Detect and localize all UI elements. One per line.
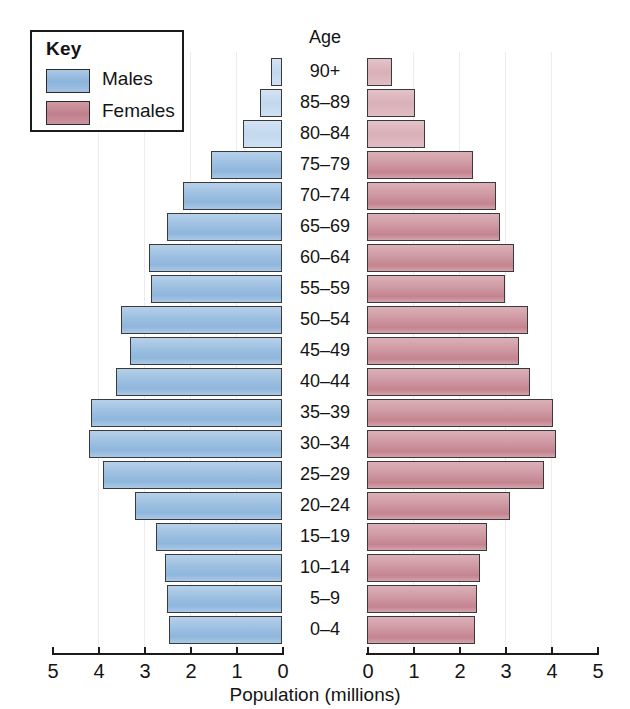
axis-tick bbox=[367, 647, 369, 655]
axis-tick bbox=[505, 647, 507, 655]
bar-male-15–19 bbox=[156, 523, 283, 551]
gridline bbox=[98, 52, 99, 647]
age-label-30–34: 30–34 bbox=[283, 433, 367, 454]
axis-tick-label-1: 1 bbox=[399, 660, 429, 683]
axis-tick-label-4: 4 bbox=[84, 660, 114, 683]
bar-female-45–49 bbox=[367, 337, 519, 365]
bar-male-30–34 bbox=[89, 430, 282, 458]
age-label-25–29: 25–29 bbox=[283, 464, 367, 485]
bar-female-50–54 bbox=[367, 306, 528, 334]
axis-tick-label-5: 5 bbox=[38, 660, 68, 683]
bar-male-70–74 bbox=[183, 182, 282, 210]
bar-female-35–39 bbox=[367, 399, 553, 427]
bar-male-40–44 bbox=[116, 368, 282, 396]
male-bars-panel bbox=[52, 52, 282, 647]
bar-male-35–39 bbox=[91, 399, 282, 427]
age-label-65–69: 65–69 bbox=[283, 216, 367, 237]
bar-male-75–79 bbox=[211, 151, 282, 179]
right-axis-line bbox=[366, 653, 598, 655]
axis-tick-label-0: 0 bbox=[353, 660, 383, 683]
axis-tick-label-2: 2 bbox=[445, 660, 475, 683]
bar-male-60–64 bbox=[149, 244, 282, 272]
bar-male-85–89 bbox=[260, 89, 282, 117]
legend-title: Key bbox=[46, 38, 81, 60]
age-label-50–54: 50–54 bbox=[283, 309, 367, 330]
axis-tick-label-0: 0 bbox=[268, 660, 298, 683]
bar-male-45–49 bbox=[130, 337, 282, 365]
axis-tick-label-5: 5 bbox=[583, 660, 613, 683]
bar-female-15–19 bbox=[367, 523, 487, 551]
gridline bbox=[551, 52, 552, 647]
bar-female-25–29 bbox=[367, 461, 544, 489]
legend-label-females: Females bbox=[102, 100, 175, 122]
bar-female-30–34 bbox=[367, 430, 556, 458]
x-axis-title: Population (millions) bbox=[0, 684, 630, 706]
bar-female-70–74 bbox=[367, 182, 496, 210]
bar-male-25–29 bbox=[103, 461, 282, 489]
bar-female-90+ bbox=[367, 58, 392, 86]
bar-female-5–9 bbox=[367, 585, 477, 613]
axis-tick bbox=[190, 647, 192, 655]
bar-male-90+ bbox=[271, 58, 282, 86]
bar-female-40–44 bbox=[367, 368, 530, 396]
age-label-45–49: 45–49 bbox=[283, 340, 367, 361]
age-label-20–24: 20–24 bbox=[283, 495, 367, 516]
axis-tick-label-4: 4 bbox=[537, 660, 567, 683]
bar-female-0–4 bbox=[367, 616, 475, 644]
bar-male-65–69 bbox=[167, 213, 282, 241]
age-label-85–89: 85–89 bbox=[283, 92, 367, 113]
age-label-70–74: 70–74 bbox=[283, 185, 367, 206]
axis-tick bbox=[144, 647, 146, 655]
age-label-75–79: 75–79 bbox=[283, 154, 367, 175]
age-label-0–4: 0–4 bbox=[283, 619, 367, 640]
legend-key-box: Key Males Females bbox=[30, 30, 184, 132]
bar-female-80–84 bbox=[367, 120, 425, 148]
axis-tick bbox=[597, 647, 599, 655]
axis-tick bbox=[413, 647, 415, 655]
age-label-5–9: 5–9 bbox=[283, 588, 367, 609]
age-label-90+: 90+ bbox=[283, 61, 367, 82]
bar-female-60–64 bbox=[367, 244, 514, 272]
axis-tick bbox=[236, 647, 238, 655]
bar-male-80–84 bbox=[243, 120, 282, 148]
female-bars-panel bbox=[367, 52, 597, 647]
bar-male-20–24 bbox=[135, 492, 282, 520]
bar-male-5–9 bbox=[167, 585, 282, 613]
legend-label-males: Males bbox=[102, 68, 153, 90]
age-label-35–39: 35–39 bbox=[283, 402, 367, 423]
age-axis-header: Age bbox=[283, 27, 367, 48]
axis-tick bbox=[98, 647, 100, 655]
population-pyramid-chart: Key Males Females Age 90+85–8980–8475–79… bbox=[0, 0, 630, 709]
age-label-40–44: 40–44 bbox=[283, 371, 367, 392]
axis-tick bbox=[282, 647, 284, 655]
axis-tick-label-2: 2 bbox=[176, 660, 206, 683]
axis-tick bbox=[551, 647, 553, 655]
male-swatch-icon bbox=[46, 69, 90, 93]
age-label-80–84: 80–84 bbox=[283, 123, 367, 144]
axis-tick bbox=[52, 647, 54, 655]
age-label-10–14: 10–14 bbox=[283, 557, 367, 578]
axis-tick-label-1: 1 bbox=[222, 660, 252, 683]
axis-tick-label-3: 3 bbox=[491, 660, 521, 683]
bar-male-0–4 bbox=[169, 616, 282, 644]
age-label-55–59: 55–59 bbox=[283, 278, 367, 299]
bar-male-10–14 bbox=[165, 554, 282, 582]
bar-female-75–79 bbox=[367, 151, 473, 179]
bar-male-55–59 bbox=[151, 275, 282, 303]
bar-male-50–54 bbox=[121, 306, 282, 334]
bar-female-65–69 bbox=[367, 213, 500, 241]
axis-tick-label-3: 3 bbox=[130, 660, 160, 683]
bar-female-85–89 bbox=[367, 89, 415, 117]
age-label-15–19: 15–19 bbox=[283, 526, 367, 547]
bar-female-55–59 bbox=[367, 275, 505, 303]
axis-tick bbox=[459, 647, 461, 655]
left-axis-line bbox=[52, 653, 283, 655]
bar-female-20–24 bbox=[367, 492, 510, 520]
female-swatch-icon bbox=[46, 101, 90, 125]
age-label-60–64: 60–64 bbox=[283, 247, 367, 268]
bar-female-10–14 bbox=[367, 554, 480, 582]
